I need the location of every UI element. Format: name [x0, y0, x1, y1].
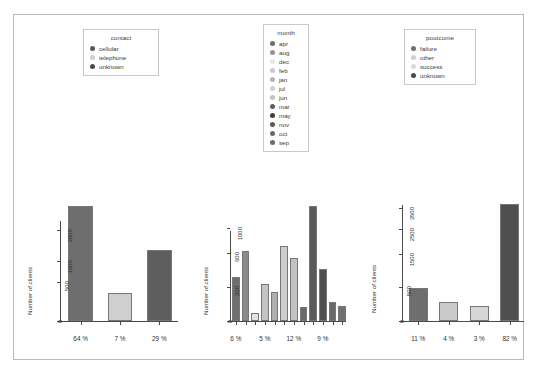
legend-title: month — [270, 29, 302, 36]
y-tick — [399, 287, 402, 288]
legend-item-label: feb — [279, 66, 288, 75]
x-tick — [159, 322, 160, 325]
legend-item-label: success — [420, 62, 442, 71]
chart-month: Number of clients 020060010006 %5 %12 %9… — [190, 185, 355, 361]
legend-item-label: unknown — [420, 71, 445, 80]
legend-swatch-icon — [270, 104, 275, 109]
legend-swatch-icon — [270, 41, 275, 46]
legend-item-telephone: telephone — [90, 53, 152, 62]
y-tick — [399, 208, 402, 209]
y-tick-label: 1500 — [409, 253, 415, 266]
legend-swatch-icon — [411, 73, 416, 78]
x-tick — [120, 322, 121, 325]
x-tick-label: 3 % — [463, 335, 495, 342]
legend-item-label: apr — [279, 39, 288, 48]
x-tick-label: 29 % — [143, 335, 175, 342]
x-tick-label: 6 % — [220, 335, 252, 342]
bar — [338, 306, 346, 321]
x-tick-label: 9 % — [307, 335, 339, 342]
chart-contact: Number of clients 05001000200064 %7 %29 … — [14, 185, 189, 361]
legend-item-nov: nov — [270, 120, 302, 129]
legend-item-failure: failure — [411, 44, 469, 53]
legend-item-label: oct — [279, 129, 287, 138]
x-tick-label: 12 % — [278, 335, 310, 342]
bar — [232, 277, 240, 321]
y-tick — [227, 228, 230, 229]
x-tick — [510, 322, 511, 325]
x-tick — [255, 322, 256, 325]
y-tick-label: 1000 — [237, 227, 243, 240]
legend-swatch-icon — [270, 113, 275, 118]
bar — [309, 206, 317, 321]
legend-swatch-icon — [270, 50, 275, 55]
bar — [300, 307, 308, 321]
legend-swatch-icon — [90, 55, 95, 60]
legend-item-dec: dec — [270, 57, 302, 66]
legend-title: poutcome — [411, 34, 469, 41]
x-tick — [284, 322, 285, 325]
legend-swatch-icon — [90, 46, 95, 51]
y-tick-label: 3500 — [409, 207, 415, 220]
legend-item-label: aug — [279, 48, 289, 57]
bar — [329, 302, 337, 321]
x-tick-label: 5 % — [249, 335, 281, 342]
legend-item-label: jan — [279, 75, 287, 84]
legend-swatch-icon — [90, 64, 95, 69]
x-tick-label: 11 % — [402, 335, 434, 342]
x-tick — [333, 322, 334, 325]
legend-swatch-icon — [270, 59, 275, 64]
legend-swatch-icon — [411, 55, 416, 60]
x-tick — [275, 322, 276, 325]
legend-item-oct: oct — [270, 129, 302, 138]
x-tick — [449, 322, 450, 325]
y-tick-label: 0 — [57, 320, 63, 323]
legend-item-feb: feb — [270, 66, 302, 75]
legend-item-label: mar — [279, 102, 290, 111]
legend-item-apr: apr — [270, 39, 302, 48]
legend-swatch-icon — [270, 140, 275, 145]
legend-title: contact — [90, 34, 152, 41]
legend-item-cellular: cellular — [90, 44, 152, 53]
y-tick-label: 0 — [399, 320, 405, 323]
y-tick-label: 2000 — [67, 229, 73, 242]
legend-item-label: failure — [420, 44, 437, 53]
y-tick — [57, 261, 60, 262]
legend-swatch-icon — [411, 64, 416, 69]
legend-swatch-icon — [270, 131, 275, 136]
legend-item-label: cellular — [99, 44, 119, 53]
y-tick — [57, 282, 60, 283]
x-tick — [342, 322, 343, 325]
legend-swatch-icon — [270, 77, 275, 82]
x-tick — [236, 322, 237, 325]
legend-item-other: other — [411, 53, 469, 62]
bar — [251, 313, 259, 321]
legend-item-label: may — [279, 111, 291, 120]
x-tick — [323, 322, 324, 325]
x-tick — [246, 322, 247, 325]
x-axis-line — [230, 321, 346, 322]
y-tick — [399, 229, 402, 230]
bar — [500, 204, 519, 321]
legend-item-label: jul — [279, 84, 285, 93]
bar-group — [231, 201, 347, 321]
bar — [290, 258, 298, 321]
bar-group — [61, 201, 179, 321]
legend-item-unknown: unknown — [90, 62, 152, 71]
x-tick — [304, 322, 305, 325]
bar — [242, 251, 250, 321]
bar — [470, 306, 489, 321]
y-axis-title: Number of clients — [26, 267, 33, 315]
x-tick — [313, 322, 314, 325]
figure-frame: contact cellular telephone unknown month… — [13, 14, 524, 360]
legend-swatch-icon — [270, 95, 275, 100]
y-tick-label: 600 — [234, 252, 240, 262]
x-tick — [265, 322, 266, 325]
legend-item-jun: jun — [270, 93, 302, 102]
legend-item-unknown: unknown — [411, 71, 469, 80]
legend-item-label: dec — [279, 57, 289, 66]
y-tick — [227, 287, 230, 288]
bar-group — [403, 201, 525, 321]
x-tick — [294, 322, 295, 325]
legend-item-jul: jul — [270, 84, 302, 93]
legend-item-label: telephone — [99, 53, 126, 62]
